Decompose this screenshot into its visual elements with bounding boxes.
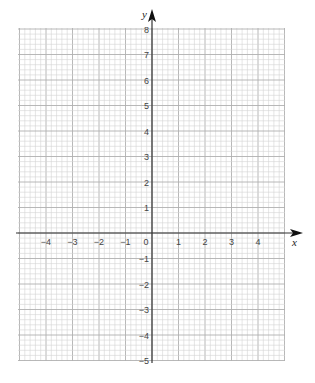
y-tick-label: −1 <box>139 254 149 264</box>
x-tick-label: −4 <box>41 237 51 247</box>
y-tick-label: −2 <box>139 280 149 290</box>
coordinate-grid: −4−3−2−101234−5−4−3−2−112345678 x y <box>0 0 315 383</box>
y-tick-label: −3 <box>139 305 149 315</box>
y-tick-label: 3 <box>144 152 149 162</box>
y-tick-label: 5 <box>144 101 149 111</box>
y-tick-label: 4 <box>144 127 149 137</box>
x-tick-label: 4 <box>255 237 260 247</box>
y-tick-label: −5 <box>139 356 149 366</box>
y-tick-label: 2 <box>144 178 149 188</box>
y-axis-label: y <box>141 8 147 20</box>
x-tick-label: −1 <box>120 237 130 247</box>
y-tick-label: 8 <box>144 25 149 35</box>
x-tick-label: 3 <box>229 237 234 247</box>
x-tick-label: −2 <box>94 237 104 247</box>
x-tick-label: 1 <box>176 237 181 247</box>
x-axis-label: x <box>291 236 297 248</box>
y-tick-label: 1 <box>144 203 149 213</box>
y-tick-label: −4 <box>139 331 149 341</box>
x-tick-label: 0 <box>143 237 148 247</box>
y-tick-label: 6 <box>144 76 149 86</box>
x-tick-label: −3 <box>67 237 77 247</box>
x-tick-label: 2 <box>202 237 207 247</box>
y-tick-label: 7 <box>144 50 149 60</box>
